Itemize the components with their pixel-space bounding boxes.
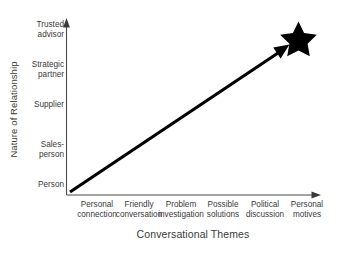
x-tick-line-1: Personal: [291, 200, 323, 209]
y-tick-line-1: Person: [38, 180, 64, 189]
trend-arrow-line: [70, 51, 281, 192]
y-tick-line-1: Sales-: [41, 140, 64, 149]
x-tick-personal-motives: Personal motives: [279, 200, 335, 220]
x-tick-line-1: Political: [251, 200, 279, 209]
y-tick-line-1: Strategic: [32, 60, 64, 69]
y-tick-person: Person: [8, 180, 64, 190]
y-tick-trusted-advisor: Trusted advisor: [8, 20, 64, 40]
chart-figure: Nature of Relationship Conversational Th…: [0, 0, 337, 255]
y-axis-arrowhead: [63, 18, 70, 28]
x-tick-line-1: Friendly: [124, 200, 153, 209]
x-tick-line-1: Possible: [208, 200, 239, 209]
x-axis-title: Conversational Themes: [66, 228, 320, 240]
y-tick-line-2: person: [8, 150, 64, 160]
x-tick-line-1: Problem: [166, 200, 197, 209]
x-tick-line-2: motives: [279, 210, 335, 220]
x-axis-arrowhead: [312, 192, 322, 199]
x-tick-line-1: Personal: [81, 200, 113, 209]
y-tick-line-1: Trusted: [37, 20, 64, 29]
trend-arrow-head: [273, 45, 289, 59]
y-tick-supplier: Supplier: [8, 100, 64, 110]
y-tick-strategic-partner: Strategic partner: [8, 60, 64, 80]
y-tick-line-2: partner: [8, 70, 64, 80]
y-tick-line-2: advisor: [8, 30, 64, 40]
y-tick-sales-person: Sales- person: [8, 140, 64, 160]
goal-star-icon: [280, 22, 317, 57]
y-tick-line-1: Supplier: [34, 100, 64, 109]
